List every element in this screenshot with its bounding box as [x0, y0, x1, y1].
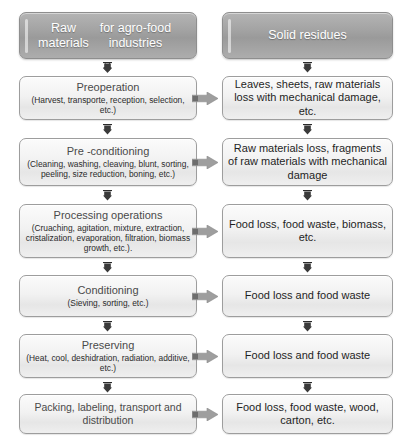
process-title: Preserving [82, 339, 135, 352]
residue-box: Raw materials loss, fragments of raw mat… [222, 138, 393, 186]
header-raw-materials-line1: Raw materials [36, 21, 91, 51]
arrow-down-icon [103, 124, 112, 135]
arrow-down-icon [303, 190, 312, 201]
flow-row: Conditioning (Sieving, sorting, etc.) Fo… [0, 275, 411, 317]
arrow-down-icon [103, 321, 112, 332]
header-raw-materials: Raw materials for agro-food industries [19, 12, 197, 59]
process-detail: (Harvest, transporte, reception, selecti… [25, 95, 191, 115]
arrow-right-icon [192, 350, 218, 363]
process-box: Pre -conditioning (Cleaning, washing, cl… [19, 138, 197, 186]
process-box: Packing, labeling, transport and distrib… [19, 394, 197, 434]
process-residue-flowchart: Raw materials for agro-food industries S… [0, 0, 411, 439]
process-title: Conditioning [77, 284, 138, 297]
process-title: Preoperation [77, 81, 140, 94]
arrow-right-icon [192, 290, 218, 303]
flow-row: Pre -conditioning (Cleaning, washing, cl… [0, 138, 411, 186]
process-detail: (Heat, cool, deshidration, radiation, ad… [25, 353, 191, 373]
header-row: Raw materials for agro-food industries S… [0, 12, 411, 59]
process-box: Preoperation (Harvest, transporte, recep… [19, 76, 197, 120]
arrow-right-icon [192, 225, 218, 238]
process-box: Processing operations (Cruaching, agitat… [19, 204, 197, 258]
residue-box: Food loss and food waste [222, 334, 393, 378]
arrow-down-icon [103, 382, 112, 393]
residue-text: Food loss, food waste, biomass, etc. [228, 218, 387, 245]
process-detail: (Cruaching, agitation, mixture, extracti… [25, 223, 191, 253]
arrow-down-icon [303, 62, 312, 73]
arrow-down-icon [103, 190, 112, 201]
flow-row: Preoperation (Harvest, transporte, recep… [0, 76, 411, 120]
flow-row: Packing, labeling, transport and distrib… [0, 394, 411, 434]
process-detail: (Sieving, sorting, etc.) [68, 298, 149, 308]
residue-box: Leaves, sheets, raw materials loss with … [222, 76, 393, 120]
arrow-down-icon [303, 262, 312, 273]
header-solid-residues-label: Solid residues [268, 28, 347, 43]
residue-text: Raw materials loss, fragments of raw mat… [228, 142, 387, 183]
arrow-down-icon [103, 262, 112, 273]
arrow-right-icon [192, 408, 218, 421]
process-title: Processing operations [54, 209, 163, 222]
process-box: Preserving (Heat, cool, deshidration, ra… [19, 334, 197, 378]
residue-box: Food loss, food waste, wood, carton, etc… [222, 394, 393, 434]
arrow-down-icon [303, 321, 312, 332]
residue-text: Food loss, food waste, wood, carton, etc… [228, 401, 387, 428]
process-box: Conditioning (Sieving, sorting, etc.) [19, 275, 197, 317]
arrow-right-icon [192, 92, 218, 105]
process-title: Packing, labeling, transport and distrib… [25, 401, 191, 428]
arrow-right-icon [192, 156, 218, 169]
residue-text: Leaves, sheets, raw materials loss with … [228, 78, 387, 119]
arrow-down-icon [303, 124, 312, 135]
process-title: Pre -conditioning [67, 145, 150, 158]
residue-text: Food loss and food waste [245, 349, 370, 363]
flow-row: Processing operations (Cruaching, agitat… [0, 204, 411, 258]
arrow-down-icon [303, 382, 312, 393]
flow-row: Preserving (Heat, cool, deshidration, ra… [0, 334, 411, 378]
process-detail: (Cleaning, washing, cleaving, blunt, sor… [25, 159, 191, 179]
residue-box: Food loss, food waste, biomass, etc. [222, 204, 393, 258]
header-raw-materials-line2: for agro-food industries [91, 21, 180, 51]
arrow-down-icon [103, 62, 112, 73]
header-solid-residues: Solid residues [222, 12, 393, 59]
residue-text: Food loss and food waste [245, 289, 370, 303]
residue-box: Food loss and food waste [222, 275, 393, 317]
